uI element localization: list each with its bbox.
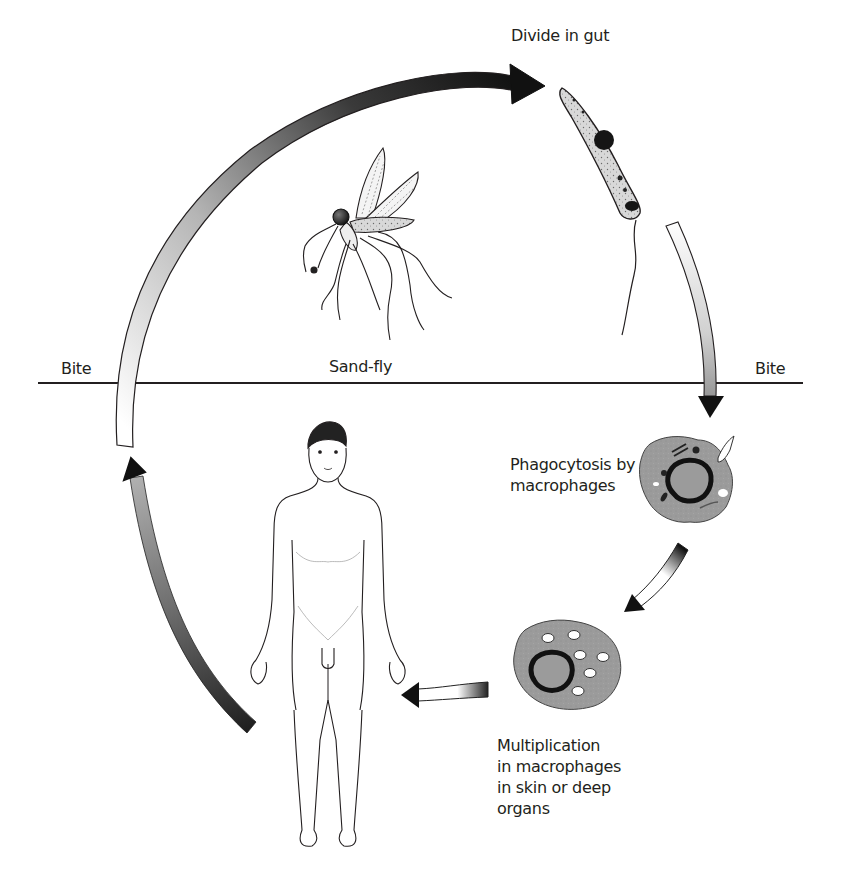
arrow-human-to-bite [124,458,256,733]
label-bite-left: Bite [61,358,91,379]
label-phagocytosis: Phagocytosis by macrophages [510,454,635,496]
label-multiplication: Multiplication in macrophages in skin or… [497,735,621,819]
infected-macrophage-icon [514,620,621,709]
arrow-gut-to-bite [666,222,724,418]
promastigote-icon [560,88,640,335]
label-bite-right: Bite [755,358,785,379]
label-divide-in-gut: Divide in gut [511,25,609,46]
arrow-multiplication-to-human [401,682,488,708]
sandfly-icon [303,148,452,340]
arrow-phago-to-multiplication [624,543,688,612]
label-sand-fly: Sand-fly [329,356,392,377]
leishmania-life-cycle-diagram: Divide in gut Sand-fly Bite Bite Phagocy… [0,0,845,884]
diagram-canvas [0,0,845,884]
macrophage-icon [639,436,734,522]
human-figure-icon [251,422,405,846]
arrow-bite-to-gut [116,64,545,447]
